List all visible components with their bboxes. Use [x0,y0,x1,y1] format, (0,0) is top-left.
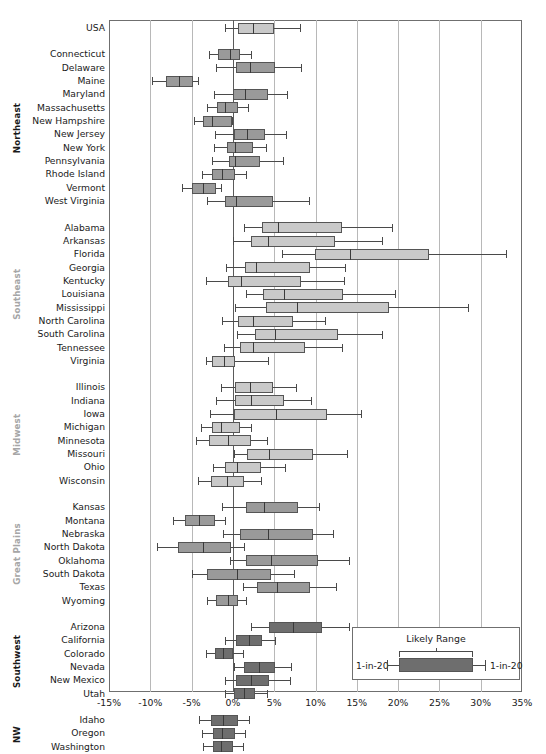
likely-range-box [213,741,233,752]
whisker-cap-high [268,357,269,365]
whisker-cap-low [235,304,236,312]
legend-median-tick [436,648,437,652]
median-line [223,715,224,726]
whisker-cap-low [221,384,222,392]
whisker-cap-high [225,517,226,525]
whisker-cap-high [266,144,267,152]
median-line [228,595,229,606]
whisker-cap-low [230,557,231,565]
likely-range-box [262,222,342,233]
whisker-cap-low [234,663,235,671]
box-row [0,715,546,726]
whisker-cap-high [309,197,310,205]
box-row [0,515,546,526]
whisker-cap-low [203,743,204,751]
box-row [0,569,546,580]
median-line [236,196,237,207]
whisker-cap-low [225,677,226,685]
median-line [269,449,270,460]
whisker-cap-high [287,91,288,99]
whisker-cap-high [198,77,199,85]
median-line [227,476,228,487]
likely-range-box [234,129,265,140]
box-row [0,276,546,287]
likely-range-box [238,23,274,34]
whisker-cap-low [182,184,183,192]
likely-range-box [246,555,318,566]
box-row [0,249,546,260]
likely-range-box [211,715,238,726]
whisker-cap-high [296,384,297,392]
legend-right-label: 1-in-20 [490,660,523,671]
likely-range-box [238,316,293,327]
box-row [0,262,546,273]
box-row [0,741,546,752]
whisker-cap-low [225,690,226,698]
median-line [253,316,254,327]
whisker-cap-low [192,570,193,578]
whisker-cap-high [336,583,337,591]
whisker-cap-low [198,477,199,485]
median-line [278,222,279,233]
likely-range-box [315,249,430,260]
legend-left-label: 1-in-20 [356,660,389,671]
box-row [0,395,546,406]
median-line [259,662,260,673]
likely-range-box [235,395,284,406]
median-line [223,648,224,659]
box-row [0,688,546,699]
whisker-cap-low [224,344,225,352]
whisker-cap-high [333,530,334,538]
median-line [221,741,222,752]
likely-range-box [207,569,271,580]
whisker-cap-high [392,224,393,232]
whisker-cap-high [325,317,326,325]
whisker-cap-high [248,104,249,112]
whisker-cap-high [246,171,247,179]
whisker-cap-high [267,690,268,698]
median-line [237,462,238,473]
box-row [0,169,546,180]
whisker-cap-high [361,410,362,418]
whisker-cap-low [207,104,208,112]
whisker-cap-low [202,171,203,179]
whisker-cap-high [347,450,348,458]
median-line [235,142,236,153]
box-row [0,342,546,353]
median-line [275,329,276,340]
whisker-cap-high [249,716,250,724]
median-line [224,356,225,367]
likely-range-box [229,156,260,167]
median-line [350,249,351,260]
median-line [284,289,285,300]
whisker-cap-low [244,224,245,232]
whisker-cap-low [222,503,223,511]
box-row [0,555,546,566]
whisker-cap-low [152,77,153,85]
whisker-cap-low [214,91,215,99]
median-line [253,23,254,34]
legend-range-box [399,658,473,672]
box-row [0,49,546,60]
median-line [256,262,257,273]
median-line [250,382,251,393]
median-line [241,276,242,287]
likely-range-box [212,422,239,433]
likely-range-box [247,449,313,460]
whisker-cap-high [345,264,346,272]
box-row [0,183,546,194]
likely-range-box [225,462,261,473]
whisker-cap-high [301,64,302,72]
whisker-cap-low [209,51,210,59]
whisker-cap-low [243,583,244,591]
median-line [230,49,231,60]
likely-range-box [227,142,253,153]
whisker-cap-high [243,650,244,658]
whisker-cap-low [237,331,238,339]
median-line [203,183,204,194]
whisker-cap-high [395,290,396,298]
likely-range-box [269,622,322,633]
legend-cap-left [387,660,388,671]
box-row [0,76,546,87]
